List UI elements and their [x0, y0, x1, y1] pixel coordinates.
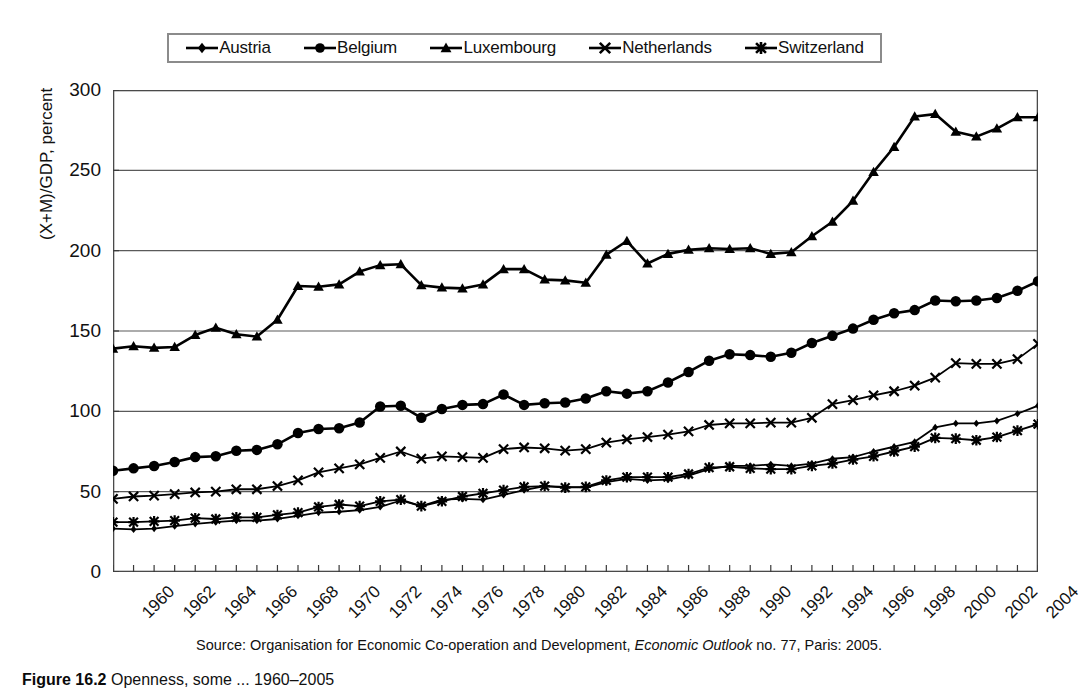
x-tick-label: 1960 [138, 582, 179, 623]
source-suffix: no. 77, Paris: 2005. [752, 637, 882, 653]
legend-marker-circle-icon [303, 40, 337, 56]
x-tick-label: 1986 [673, 582, 714, 623]
x-tick-label: 1994 [837, 582, 878, 623]
y-tick-label: 50 [51, 481, 101, 503]
legend-marker-x-icon [588, 40, 622, 56]
y-tick-label: 300 [51, 79, 101, 101]
x-tick-label: 1974 [426, 582, 467, 623]
y-tick-label: 200 [51, 240, 101, 262]
series-switzerland [113, 419, 1038, 528]
chart-canvas [113, 90, 1038, 572]
legend-label: Luxembourg [463, 38, 556, 58]
x-tick-label: 2004 [1043, 582, 1083, 623]
x-tick-label: 1966 [261, 582, 302, 623]
legend-item-austria: Austria [185, 38, 271, 58]
legend-item-belgium: Belgium [303, 38, 397, 58]
x-tick-label: 1980 [549, 582, 590, 623]
source-prefix: Source: Organisation for Economic Co-ope… [196, 637, 634, 653]
legend-label: Switzerland [778, 38, 864, 58]
source-note: Source: Organisation for Economic Co-ope… [0, 637, 1078, 653]
x-tick-label: 1982 [590, 582, 631, 623]
legend-marker-triangle-icon [429, 40, 463, 56]
source-publication-title: Economic Outlook [635, 637, 753, 653]
series-luxembourg [113, 109, 1038, 353]
figure-caption: Figure 16.2 Openness, some ... 1960–2005 [22, 671, 1022, 692]
x-tick-label: 1984 [631, 582, 672, 623]
y-axis-title: (X+M)/GDP, percent [37, 88, 57, 240]
legend-label: Netherlands [622, 38, 711, 58]
series-austria [113, 402, 1038, 533]
legend-item-switzerland: Switzerland [744, 38, 864, 58]
figure-caption-text: Openness, some ... 1960–2005 [111, 671, 334, 688]
x-tick-label: 1988 [714, 582, 755, 623]
legend-marker-diamond-icon [185, 40, 219, 56]
legend-item-netherlands: Netherlands [588, 38, 711, 58]
x-tick-label: 1972 [385, 582, 426, 623]
x-tick-label: 1968 [303, 582, 344, 623]
legend-label: Belgium [337, 38, 397, 58]
x-tick-label: 1970 [344, 582, 385, 623]
x-tick-label: 1976 [467, 582, 508, 623]
y-tick-label: 250 [51, 159, 101, 181]
x-tick-label: 2000 [960, 582, 1001, 623]
legend-marker-asterisk-icon [744, 40, 778, 56]
x-tick-label: 1978 [508, 582, 549, 623]
figure-number: Figure 16.2 [22, 671, 106, 688]
x-tick-label: 1998 [919, 582, 960, 623]
x-tick-label: 1962 [179, 582, 220, 623]
plot-area: 050100150200250300 196019621964196619681… [113, 90, 1038, 572]
y-tick-label: 150 [51, 320, 101, 342]
x-tick-label: 2002 [1001, 582, 1042, 623]
series-netherlands [113, 339, 1038, 503]
x-tick-label: 1964 [220, 582, 261, 623]
x-tick-label: 1992 [796, 582, 837, 623]
legend-label: Austria [219, 38, 271, 58]
x-tick-label: 1990 [755, 582, 796, 623]
y-tick-label: 0 [51, 561, 101, 583]
x-axis-ticks: 1960196219641966196819701972197419761978… [113, 576, 1038, 646]
legend-item-luxembourg: Luxembourg [429, 38, 556, 58]
chart-legend: AustriaBelgiumLuxembourgNetherlandsSwitz… [167, 33, 882, 63]
x-tick-label: 1996 [878, 582, 919, 623]
y-tick-label: 100 [51, 400, 101, 422]
